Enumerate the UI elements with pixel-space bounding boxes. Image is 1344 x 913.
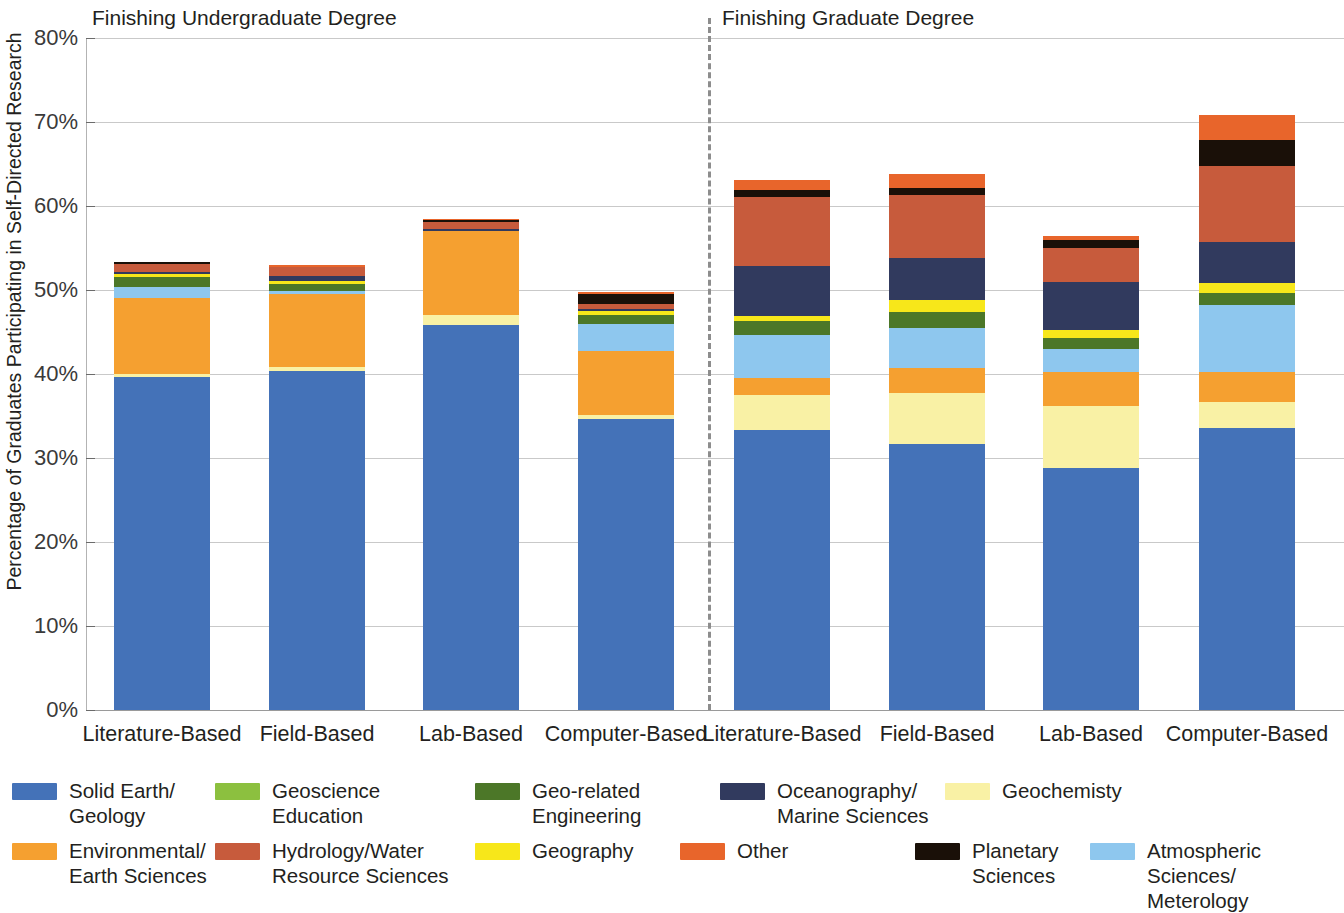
bar-segment [734, 378, 830, 395]
bar-segment [1199, 115, 1295, 139]
legend-item-label: Environmental/ Earth Sciences [69, 838, 207, 888]
legend-item-label: Other [737, 838, 788, 863]
bar-segment [1043, 248, 1139, 282]
legend-swatch-atmospheric-sciences-meterology [1090, 843, 1135, 860]
bar-segment [734, 335, 830, 379]
bar-segment [1043, 468, 1139, 710]
legend-swatch-environmental-earth-sciences [12, 843, 57, 860]
bar-segment [269, 294, 365, 367]
bar-6[interactable] [889, 174, 985, 710]
legend-item[interactable]: Solid Earth/ Geology [12, 778, 175, 828]
bar-segment [734, 321, 830, 334]
bar-3[interactable] [423, 219, 519, 710]
y-axis-tick-label: 40% [34, 361, 78, 387]
x-axis-label-3: Lab-Based [419, 722, 523, 747]
legend-swatch-geoscience-education [215, 783, 260, 800]
legend-item-label: Hydrology/Water Resource Sciences [272, 838, 449, 888]
x-axis-label-1: Literature-Based [83, 722, 242, 747]
legend-swatch-solid-earth-geology [12, 783, 57, 800]
bar-segment [578, 419, 674, 710]
bar-segment [578, 294, 674, 303]
legend-item[interactable]: Geoscience Education [215, 778, 380, 828]
legend-swatch-geography [475, 843, 520, 860]
legend-item-label: Atmospheric Sciences/ Meterology [1147, 838, 1344, 913]
x-axis-label-4: Computer-Based [545, 722, 708, 747]
legend-swatch-hydrology-water-resource-sciences [215, 843, 260, 860]
bar-segment [114, 377, 210, 710]
bar-segment [1043, 349, 1139, 372]
bar-segment [889, 174, 985, 188]
chart-legend: Solid Earth/ GeologyGeoscience Education… [0, 778, 1344, 896]
bar-segment [1199, 140, 1295, 166]
bar-segment [1199, 242, 1295, 283]
y-axis-tick-label: 60% [34, 193, 78, 219]
bar-segment [889, 393, 985, 443]
x-axis-label-2: Field-Based [260, 722, 375, 747]
bar-segment [114, 298, 210, 374]
bar-segment [423, 231, 519, 315]
bar-segment [114, 277, 210, 286]
legend-item[interactable]: Geography [475, 838, 633, 863]
y-axis-tick-label: 10% [34, 613, 78, 639]
legend-swatch-geochemisty [945, 783, 990, 800]
bar-1[interactable] [114, 262, 210, 711]
y-axis-tick-mark [86, 710, 95, 711]
bar-segment [1043, 338, 1139, 349]
legend-swatch-geo-related-engineering [475, 783, 520, 800]
bar-segment [1199, 305, 1295, 371]
legend-item-label: Planetary Sciences [972, 838, 1059, 888]
bar-segment [889, 444, 985, 710]
bar-segment [1199, 283, 1295, 293]
bar-segment [1199, 166, 1295, 242]
bar-segment [423, 222, 519, 229]
legend-swatch-other [680, 843, 725, 860]
x-axis-line [86, 710, 1344, 711]
bar-segment [578, 315, 674, 323]
legend-item[interactable]: Other [680, 838, 788, 863]
legend-item-label: Geography [532, 838, 633, 863]
group-title-graduate: Finishing Graduate Degree [722, 6, 974, 30]
y-axis-title: Percentage of Graduates Participating in… [3, 0, 26, 632]
legend-item-label: Geochemisty [1002, 778, 1122, 803]
x-axis-label-7: Lab-Based [1039, 722, 1143, 747]
bar-5[interactable] [734, 180, 830, 710]
bar-segment [269, 284, 365, 291]
legend-item[interactable]: Geochemisty [945, 778, 1122, 803]
legend-item[interactable]: Geo-related Engineering [475, 778, 641, 828]
bar-segment [734, 180, 830, 190]
bar-8[interactable] [1199, 115, 1295, 710]
bar-segment [734, 197, 830, 266]
bar-segment [1199, 402, 1295, 428]
bar-segment [269, 371, 365, 710]
bar-segment [889, 258, 985, 300]
bar-segment [734, 395, 830, 430]
legend-item[interactable]: Planetary Sciences [915, 838, 1059, 888]
legend-item[interactable]: Environmental/ Earth Sciences [12, 838, 207, 888]
y-axis-tick-label: 30% [34, 445, 78, 471]
bar-segment [114, 264, 210, 272]
x-axis-label-6: Field-Based [880, 722, 995, 747]
bar-segment [1199, 293, 1295, 305]
bar-segment [1043, 406, 1139, 468]
bar-segment [889, 312, 985, 328]
bar-7[interactable] [1043, 236, 1139, 710]
bar-segment [889, 368, 985, 393]
y-axis-tick-label: 20% [34, 529, 78, 555]
y-axis-tick-label: 80% [34, 25, 78, 51]
bar-segment [1043, 330, 1139, 338]
legend-swatch-planetary-sciences [915, 843, 960, 860]
legend-item-label: Geo-related Engineering [532, 778, 641, 828]
bar-segment [734, 430, 830, 710]
bar-segment [1043, 372, 1139, 406]
bar-segment [1043, 240, 1139, 248]
bar-segment [889, 300, 985, 312]
group-title-undergraduate: Finishing Undergraduate Degree [92, 6, 397, 30]
legend-item-label: Oceanography/ Marine Sciences [777, 778, 929, 828]
y-axis-tick-label: 0% [46, 697, 78, 723]
legend-item[interactable]: Oceanography/ Marine Sciences [720, 778, 929, 828]
bar-2[interactable] [269, 265, 365, 710]
bar-4[interactable] [578, 292, 674, 710]
legend-item[interactable]: Atmospheric Sciences/ Meterology [1090, 838, 1344, 913]
legend-item[interactable]: Hydrology/Water Resource Sciences [215, 838, 449, 888]
